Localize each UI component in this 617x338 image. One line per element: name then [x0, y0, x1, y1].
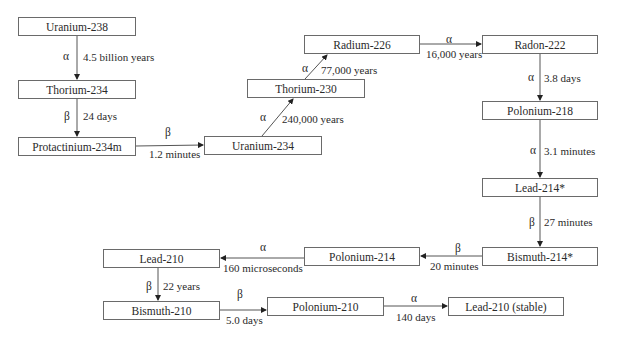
node-label: Polonium-214 [329, 251, 395, 263]
half-life-label: 4.5 billion years [83, 51, 154, 63]
decay-type-label: β [455, 242, 461, 254]
half-life-label: 5.0 days [226, 314, 263, 326]
node-lead-214: Lead-214* [482, 178, 598, 197]
node-polonium-218: Polonium-218 [482, 101, 598, 120]
node-bismuth-210: Bismuth-210 [103, 301, 220, 320]
decay-type-label: α [260, 111, 266, 123]
node-label: Polonium-210 [293, 301, 359, 313]
node-thorium-234: Thorium-234 [18, 80, 136, 99]
half-life-label: 240,000 years [282, 113, 344, 125]
node-label: Uranium-234 [232, 140, 294, 152]
node-lead-210-stable: Lead-210 (stable) [448, 297, 564, 316]
half-life-label: 16,000 years [426, 48, 482, 60]
node-label: Lead-210 (stable) [465, 301, 546, 313]
decay-type-label: α [302, 62, 308, 74]
decay-type-label: β [64, 110, 70, 122]
half-life-label: 27 minutes [544, 216, 593, 228]
node-label: Polonium-218 [507, 105, 573, 117]
node-polonium-214: Polonium-214 [304, 247, 420, 266]
node-protactinium-234m: Protactinium-234m [18, 137, 136, 156]
node-label: Radium-226 [333, 39, 391, 51]
half-life-label: 24 days [83, 110, 117, 122]
node-bismuth-214: Bismuth-214* [482, 247, 598, 266]
node-thorium-230: Thorium-230 [247, 79, 365, 98]
node-polonium-210: Polonium-210 [267, 297, 384, 316]
node-uranium-234: Uranium-234 [204, 136, 322, 155]
half-life-label: 3.8 days [544, 72, 581, 84]
node-label: Radon-222 [514, 39, 565, 51]
node-label: Lead-210 [139, 253, 183, 265]
decay-type-label: α [260, 241, 266, 253]
half-life-label: 160 microseconds [223, 262, 303, 274]
decay-type-label: α [63, 50, 69, 62]
half-life-label: 3.1 minutes [544, 145, 595, 157]
node-label: Thorium-234 [46, 84, 107, 96]
node-label: Uranium-238 [46, 21, 108, 33]
half-life-label: 140 days [396, 311, 435, 323]
half-life-label: 1.2 minutes [149, 148, 200, 160]
half-life-label: 77,000 years [321, 64, 377, 76]
arrow-pa234m-u234 [136, 145, 203, 146]
decay-type-label: α [411, 292, 417, 304]
node-label: Protactinium-234m [32, 141, 121, 153]
node-radium-226: Radium-226 [304, 35, 420, 54]
node-uranium-238: Uranium-238 [18, 17, 136, 36]
node-label: Bismuth-214* [507, 251, 573, 263]
node-label: Lead-214* [515, 182, 565, 194]
decay-type-label: β [165, 126, 171, 138]
half-life-label: 22 years [163, 280, 200, 292]
decay-type-label: α [528, 71, 534, 83]
decay-type-label: β [146, 280, 152, 292]
node-radon-222: Radon-222 [482, 35, 598, 54]
node-label: Thorium-230 [275, 83, 336, 95]
node-lead-210: Lead-210 [103, 249, 220, 268]
half-life-label: 20 minutes [430, 260, 479, 272]
decay-type-label: α [530, 144, 536, 156]
decay-type-label: α [446, 33, 452, 45]
node-label: Bismuth-210 [131, 305, 191, 317]
decay-type-label: β [237, 288, 243, 300]
decay-type-label: β [529, 216, 535, 228]
